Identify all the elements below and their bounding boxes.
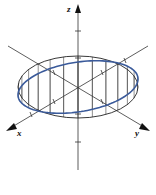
y-tick <box>53 70 55 75</box>
z-axis-arrow-icon <box>75 4 81 13</box>
z-axis-label: z <box>66 4 71 14</box>
x-axis-arrow-icon <box>6 123 17 131</box>
y-axis-arrow-icon <box>139 123 150 131</box>
y-axis-label: y <box>134 128 140 138</box>
x-axis-label: x <box>16 128 22 138</box>
cylinder-plane-intersection-diagram: z x y <box>0 0 156 195</box>
